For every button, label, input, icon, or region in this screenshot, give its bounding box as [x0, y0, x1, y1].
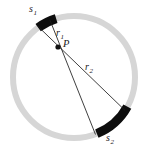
- label-r2-sub: 2: [89, 67, 93, 75]
- label-r2: r2: [85, 62, 92, 72]
- label-s1: s1: [29, 4, 36, 14]
- figure-container: s1 r1 P r2 s2: [0, 0, 150, 158]
- label-r1: r1: [56, 28, 63, 38]
- label-point-p: P: [63, 39, 69, 50]
- label-s2: s2: [106, 133, 113, 143]
- label-s1-sub: 1: [33, 9, 37, 17]
- label-p-base: P: [63, 38, 69, 49]
- geometry-diagram: [0, 0, 150, 158]
- point-p-marker: [55, 44, 60, 49]
- arc-s2: [97, 107, 128, 134]
- label-s2-sub: 2: [110, 138, 114, 146]
- chord-ray-a: [38, 26, 125, 110]
- arc-s1: [38, 19, 56, 28]
